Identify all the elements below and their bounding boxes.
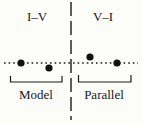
panel-header-left: I–V: [27, 9, 48, 24]
bracket-label-right: Parallel: [84, 87, 124, 102]
condition-diagram: I–V V–I Model Parallel: [0, 0, 142, 124]
data-point: [113, 59, 120, 66]
data-point: [86, 53, 93, 60]
bracket-label-left: Model: [19, 87, 53, 102]
data-point: [17, 59, 24, 66]
bracket-left: [11, 76, 63, 82]
panel-header-right: V–I: [93, 9, 113, 24]
bracket-right: [79, 75, 132, 82]
data-point: [45, 64, 52, 71]
